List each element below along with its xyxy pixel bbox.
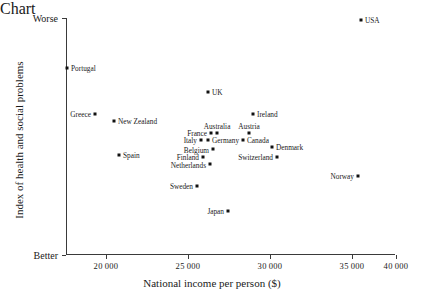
data-point xyxy=(212,148,215,151)
x-axis-tick-label: 40 000 xyxy=(384,261,409,271)
data-point xyxy=(202,156,205,159)
data-point xyxy=(357,175,360,178)
data-point-label: Ireland xyxy=(257,110,278,119)
data-point xyxy=(209,163,212,166)
data-point-label: Italy xyxy=(184,136,197,145)
y-axis-tick-mark xyxy=(62,255,66,256)
data-point-label: Denmark xyxy=(276,143,303,152)
data-point xyxy=(360,19,363,22)
y-axis-title: Index of health and social problems xyxy=(13,20,25,260)
data-point-label: Japan xyxy=(207,207,224,216)
data-point-label: Portugal xyxy=(71,64,96,73)
data-point xyxy=(248,132,251,135)
data-point-label: Canada xyxy=(247,136,269,145)
data-point-label: USA xyxy=(365,16,380,25)
scatter-chart-figure: Index of health and social problems Nati… xyxy=(0,0,424,301)
data-point xyxy=(118,154,121,157)
y-axis-tick-mark xyxy=(62,18,66,19)
data-point xyxy=(271,146,274,149)
data-point-label: Australia xyxy=(204,122,231,131)
data-point xyxy=(252,113,255,116)
data-point-label: UK xyxy=(212,88,223,97)
data-point-label: Sweden xyxy=(170,182,193,191)
x-axis-tick-label: 30 000 xyxy=(258,261,283,271)
x-axis-tick-mark xyxy=(188,255,189,259)
data-point xyxy=(66,67,69,70)
x-axis-tick-label: 25 000 xyxy=(176,261,201,271)
data-point xyxy=(207,139,210,142)
data-point-label: New Zealand xyxy=(118,117,157,126)
data-point xyxy=(227,210,230,213)
data-point xyxy=(207,91,210,94)
y-axis-tick-label-bottom: Better xyxy=(34,250,58,261)
y-axis-tick-label-top: Worse xyxy=(33,13,58,24)
data-point-label: Switzerland xyxy=(238,153,273,162)
data-point xyxy=(276,156,279,159)
data-point-label: Austria xyxy=(238,122,259,131)
data-point-label: Germany xyxy=(212,136,239,145)
data-point-label: Spain xyxy=(123,151,140,160)
data-point-label: Norway xyxy=(330,172,354,181)
x-axis-tick-label: 35 000 xyxy=(340,261,365,271)
data-point xyxy=(200,139,203,142)
x-axis-tick-label: 20 000 xyxy=(94,261,119,271)
data-point xyxy=(113,120,116,123)
data-point-label: Netherlands xyxy=(171,161,206,170)
data-point xyxy=(216,132,219,135)
data-point xyxy=(242,139,245,142)
x-axis-tick-mark xyxy=(270,255,271,259)
data-point xyxy=(196,185,199,188)
x-axis-tick-mark xyxy=(352,255,353,259)
x-axis-tick-mark xyxy=(106,255,107,259)
x-axis-tick-mark xyxy=(396,255,397,259)
data-point xyxy=(210,132,213,135)
data-point xyxy=(94,113,97,116)
data-point-label: Greece xyxy=(70,110,91,119)
x-axis-title: National income per person ($) xyxy=(0,277,424,289)
